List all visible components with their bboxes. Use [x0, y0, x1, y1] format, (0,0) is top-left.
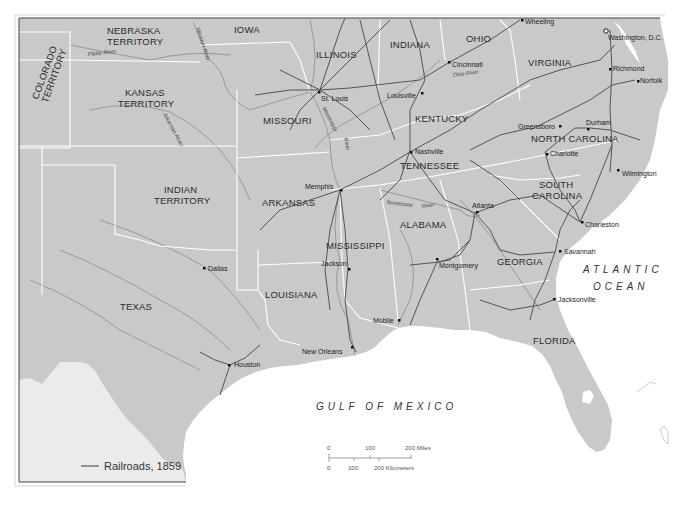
- city-label-norfolk: Norfolk: [640, 77, 663, 84]
- city-marker-greensboro: [559, 125, 562, 128]
- city-label-atlanta: Atlanta: [472, 202, 494, 209]
- city-label-mobile: Mobile: [373, 317, 394, 324]
- city-marker-st-louis: [318, 91, 321, 94]
- state-label-virginia: VIRGINIA: [528, 57, 572, 68]
- city-label-new-orleans: New Orleans: [302, 348, 343, 355]
- city-label-houston: Houston: [234, 361, 260, 368]
- state-label-florida: FLORIDA: [533, 335, 576, 346]
- state-label-indian-line2: TERRITORY: [154, 195, 211, 206]
- ocean-label-ocean: OCEAN: [593, 281, 649, 292]
- state-label-kansas: KANSAS: [125, 87, 165, 98]
- city-marker-richmond: [609, 68, 612, 71]
- state-label-indian: INDIAN: [164, 184, 197, 195]
- city-marker-new-orleans: [351, 346, 354, 349]
- city-label-cincinnati: Cincinnati: [452, 61, 483, 68]
- scale-km-200: 200 Kilometers: [374, 465, 414, 471]
- state-label-missouri: MISSOURI: [263, 115, 312, 126]
- city-marker-cincinnati: [448, 61, 451, 64]
- state-label-arkansas: ARKANSAS: [262, 197, 315, 208]
- scale-km-100: 100: [348, 465, 359, 471]
- state-label-indiana: INDIANA: [390, 39, 430, 50]
- city-label-richmond: Richmond: [613, 65, 645, 72]
- city-marker-charlotte: [546, 153, 549, 156]
- state-label-iowa: IOWA: [234, 24, 260, 35]
- legend-label: Railroads, 1859: [104, 460, 181, 472]
- ocean-label-gulf-of-mexico: GULF OF MEXICO: [316, 401, 457, 412]
- city-marker-savannah: [559, 250, 562, 253]
- capital-marker-washington: [604, 29, 608, 33]
- city-marker-wilmington: [617, 169, 620, 172]
- city-label-washington-dc: Washington, D.C.: [608, 34, 663, 42]
- city-marker-jacksonville: [553, 298, 556, 301]
- city-label-wilmington: Wilmington: [622, 170, 657, 178]
- city-label-jacksonville: Jacksonville: [558, 296, 596, 303]
- state-label-ohio: OHIO: [466, 33, 491, 44]
- city-marker-durham: [587, 128, 590, 131]
- city-marker-houston: [228, 364, 231, 367]
- state-label-nebraska-line2: TERRITORY: [107, 36, 164, 47]
- city-label-jackson: Jackson: [321, 260, 347, 267]
- state-label-louisiana: LOUISIANA: [265, 289, 318, 300]
- city-marker-charleston: [581, 221, 584, 224]
- city-label-greensboro: Greensboro: [518, 123, 555, 130]
- city-marker-jackson: [348, 268, 351, 271]
- city-label-st-louis: St. Louis: [321, 95, 349, 102]
- ocean-label-atlantic: ATLANTIC: [582, 264, 663, 275]
- city-marker-nashville: [410, 151, 413, 154]
- city-label-montgomery: Montgomery: [439, 262, 478, 270]
- city-label-charleston: Charleston: [585, 221, 619, 228]
- city-label-memphis: Memphis: [305, 183, 334, 191]
- city-marker-montgomery: [436, 258, 439, 261]
- city-marker-mobile: [398, 319, 401, 322]
- city-marker-louisville: [421, 92, 424, 95]
- state-label-tennessee: TENNESSEE: [400, 160, 459, 171]
- state-label-kentucky: KENTUCKY: [415, 113, 469, 124]
- state-label-kansas-line2: TERRITORY: [118, 98, 175, 109]
- state-label-mississippi: MISSISSIPPI: [326, 240, 385, 251]
- state-label-alabama: ALABAMA: [400, 219, 447, 230]
- state-label-texas: TEXAS: [120, 301, 152, 312]
- state-label-illinois: ILLINOIS: [316, 49, 357, 60]
- railroads-1859-map: NEBRASKA TERRITORY IOWA COLORADO TERRITO…: [0, 0, 687, 505]
- state-label-georgia: GEORGIA: [497, 256, 543, 267]
- city-label-wheeling: Wheeling: [525, 18, 554, 26]
- city-label-dallas: Dallas: [208, 265, 228, 272]
- city-marker-dallas: [203, 267, 206, 270]
- city-label-louisville: Louisville: [387, 92, 416, 99]
- state-label-south: SOUTH: [539, 179, 573, 190]
- city-marker-wheeling: [521, 19, 524, 22]
- state-label-carolina: CAROLINA: [532, 190, 583, 201]
- city-label-nashville: Nashville: [415, 148, 444, 155]
- scale-miles-200: 200 Miles: [405, 445, 431, 451]
- city-marker-memphis: [340, 189, 343, 192]
- city-label-savannah: Savannah: [564, 248, 596, 255]
- state-label-north-carolina: NORTH CAROLINA: [531, 133, 619, 144]
- city-marker-atlanta: [476, 211, 479, 214]
- city-label-charlotte: Charlotte: [550, 150, 579, 157]
- scale-miles-100: 100: [365, 445, 376, 451]
- state-label-nebraska: NEBRASKA: [107, 25, 161, 36]
- city-label-durham: Durham: [586, 119, 611, 126]
